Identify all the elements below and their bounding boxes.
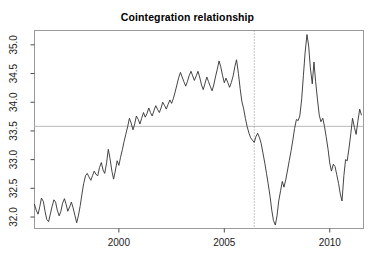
y-tick-label: 32.5: [9, 178, 20, 198]
x-tick-label: 2010: [319, 237, 342, 248]
plot-box: [35, 31, 364, 229]
y-tick-label: 34.0: [9, 92, 20, 112]
y-tick-label: 33.0: [9, 149, 20, 169]
chart-figure: Cointegration relationship 32.032.533.03…: [0, 0, 375, 259]
x-tick-label: 2005: [213, 237, 236, 248]
y-tick-label: 34.5: [9, 63, 20, 83]
plot-area: 32.032.533.033.534.034.535.0200020052010: [0, 0, 375, 259]
y-tick-label: 33.5: [9, 121, 20, 141]
y-tick-label: 35.0: [8, 35, 19, 55]
y-tick-label: 32.0: [9, 207, 20, 227]
x-tick-label: 2000: [108, 237, 131, 248]
data-series-line: [35, 35, 362, 226]
